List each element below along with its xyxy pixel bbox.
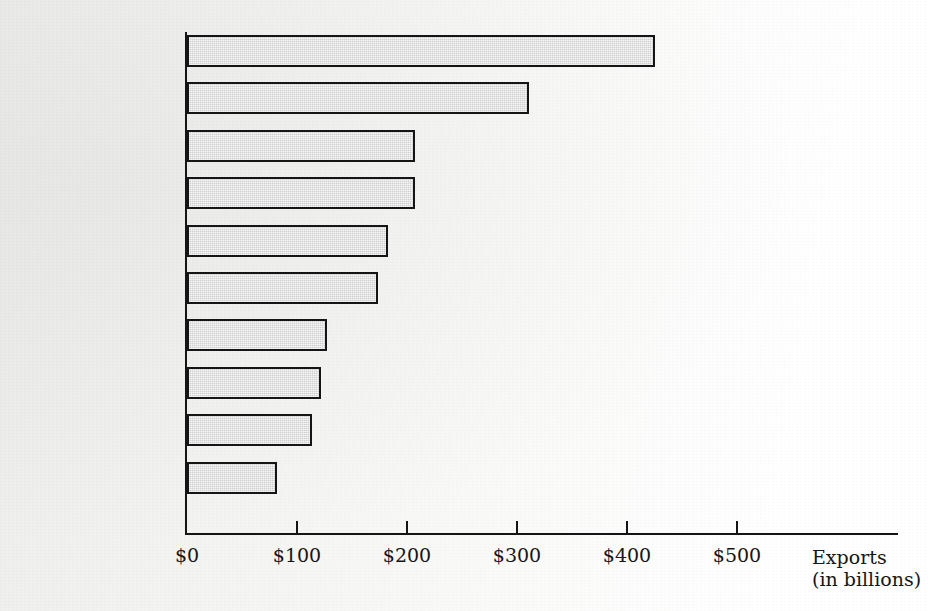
x-axis-tick [516,521,518,533]
bar [187,272,378,304]
x-axis-tick-label: $200 [357,546,457,565]
bar [187,319,327,351]
plot-area: $0$100$200$300$400$500 [0,0,928,611]
bar [187,35,655,67]
bar [187,414,312,446]
x-axis-title: Exports (in billions) [812,546,921,591]
x-axis-tick-label: $300 [467,546,567,565]
bar [187,82,529,114]
x-axis-tick [406,521,408,533]
bar [187,367,321,399]
bar [187,225,388,257]
x-axis-tick-label: $0 [137,546,237,565]
chart-page: United StatesJapanFranceItalyUnited King… [0,0,928,611]
x-axis-tick-label: $400 [577,546,677,565]
x-axis-title-line1: Exports [812,546,887,568]
x-axis-title-line2: (in billions) [812,568,921,590]
bar [187,130,415,162]
x-axis-line [185,533,898,535]
x-axis-tick [736,521,738,533]
x-axis-tick-label: $500 [687,546,787,565]
x-axis-tick-label: $100 [247,546,347,565]
x-axis-tick [626,521,628,533]
bar [187,177,415,209]
bar [187,462,277,494]
x-axis-tick [296,521,298,533]
